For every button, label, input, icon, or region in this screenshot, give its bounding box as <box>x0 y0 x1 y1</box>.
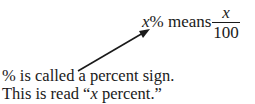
annotation-suffix: percent.” <box>98 84 162 103</box>
annotation-line-2: This is read “x percent.” <box>2 85 162 103</box>
annotation-prefix: This is read “ <box>2 84 90 103</box>
annotation-variable: x <box>90 84 97 103</box>
annotation-line-1: % is called a percent sign. <box>2 67 174 85</box>
